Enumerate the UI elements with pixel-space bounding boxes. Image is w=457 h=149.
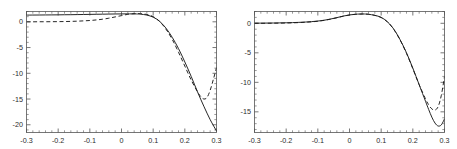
plot-right-frame: [255, 12, 445, 133]
x-tick-label: 0.3: [212, 136, 222, 145]
x-tick-label: -0.1: [84, 136, 96, 145]
y-tick-label: -15: [13, 95, 23, 104]
x-tick-label: -0.3: [248, 136, 260, 145]
x-tick-label: -0.2: [52, 136, 64, 145]
axes-frame-rect: [255, 12, 445, 133]
y-axis-tick-labels-right: 0-5-10-15: [241, 19, 251, 117]
x-tick-label: 0.2: [408, 136, 418, 145]
plot-panel-right: -0.3-0.2-0.100.10.20.3 0-5-10-15: [228, 0, 456, 149]
x-tick-label: 0.1: [376, 136, 386, 145]
y-tick-label: -15: [241, 107, 251, 116]
curve-dashed: [27, 14, 217, 100]
curve-dashed: [255, 14, 445, 110]
data-curves-left: [27, 14, 217, 131]
x-tick-label: -0.2: [280, 136, 292, 145]
y-tick-label: -10: [13, 69, 23, 78]
y-tick-label: -20: [13, 120, 23, 129]
data-curves-right: [255, 14, 445, 126]
plot-right-svg: -0.3-0.2-0.100.10.20.3 0-5-10-15: [228, 0, 456, 149]
x-axis-tick-labels-left: -0.3-0.2-0.100.10.20.3: [20, 136, 221, 145]
y-axis-ticks-right: [255, 12, 445, 130]
x-tick-label: 0: [120, 136, 124, 145]
plot-panel-left: -0.3-0.2-0.100.10.20.3 0-5-10-15-20: [0, 0, 228, 149]
x-tick-label: 0: [348, 136, 352, 145]
y-tick-label: 0: [19, 17, 23, 26]
y-tick-label: 0: [247, 19, 251, 28]
curve-solid: [255, 14, 445, 126]
x-tick-label: -0.3: [20, 136, 32, 145]
x-axis-ticks-right: [255, 12, 445, 133]
y-axis-ticks-left: [27, 12, 217, 130]
y-axis-tick-labels-left: 0-5-10-15-20: [13, 17, 23, 129]
x-tick-label: 0.1: [148, 136, 158, 145]
y-tick-label: -10: [241, 78, 251, 87]
x-tick-label: -0.1: [312, 136, 324, 145]
figure-two-panel-line-plots: -0.3-0.2-0.100.10.20.3 0-5-10-15-20 -0.3…: [0, 0, 457, 149]
x-tick-label: 0.2: [180, 136, 190, 145]
x-tick-label: 0.3: [440, 136, 450, 145]
plot-left-svg: -0.3-0.2-0.100.10.20.3 0-5-10-15-20: [0, 0, 228, 149]
y-tick-label: -5: [17, 43, 23, 52]
x-axis-tick-labels-right: -0.3-0.2-0.100.10.20.3: [248, 136, 449, 145]
y-tick-label: -5: [245, 48, 251, 57]
